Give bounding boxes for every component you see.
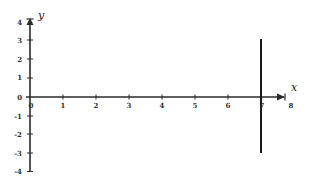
- coordinate-plane: y x 0 1 2 3 4 5 6 7 8 4 3 2 1 0 -1: [0, 0, 309, 188]
- x-tick-labels: 0 1 2 3 4 5 6 7 8: [29, 101, 294, 110]
- y-tick-label-2: 2: [17, 55, 22, 64]
- y-tick-label-1: 1: [17, 73, 22, 82]
- y-tick-label-neg1: -1: [14, 112, 22, 121]
- x-tick-label-2: 2: [94, 101, 99, 110]
- y-tick-label-0: 0: [17, 93, 22, 102]
- x-tick-label-8: 8: [289, 101, 294, 110]
- x-tick-label-0: 0: [29, 101, 34, 110]
- y-tick-label-neg4: -4: [14, 167, 22, 176]
- x-tick-label-1: 1: [61, 101, 66, 110]
- x-tick-label-6: 6: [226, 101, 231, 110]
- y-tick-label-neg2: -2: [14, 130, 22, 139]
- y-axis-label: y: [37, 9, 45, 22]
- y-tick-labels: 4 3 2 1 0 -1 -2 -3 -4: [14, 18, 22, 176]
- x-axis-arrow-icon: [277, 94, 285, 101]
- x-tick-label-3: 3: [127, 101, 132, 110]
- y-tick-label-4: 4: [17, 18, 22, 27]
- x-tick-label-4: 4: [160, 101, 165, 110]
- y-tick-label-neg3: -3: [14, 149, 22, 158]
- x-tick-label-5: 5: [193, 101, 198, 110]
- x-axis-label: x: [291, 81, 298, 94]
- y-tick-label-3: 3: [17, 36, 22, 45]
